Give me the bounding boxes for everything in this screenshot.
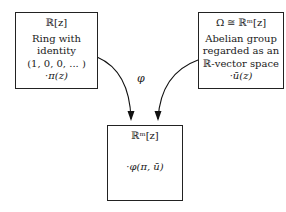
group-desc-line-1: Abelian group — [199, 33, 283, 46]
ring-desc-line-2: identity — [16, 45, 97, 58]
arrow-left-to-bottom — [97, 57, 131, 119]
group-desc-line-2: regarded as an — [199, 45, 283, 58]
arrowhead-left — [128, 111, 135, 121]
ring-desc-line-3: (1, 0, 0, ... ) — [16, 58, 97, 71]
module-title: ℝᵐ[z] — [108, 130, 182, 143]
module-element: ·φ(π, ū) — [108, 161, 182, 174]
arrow-right-to-bottom — [158, 60, 198, 119]
map-label-phi: φ — [137, 72, 145, 85]
arrowhead-right — [155, 111, 162, 121]
ring-desc-line-1: Ring with — [16, 33, 97, 46]
ring-box: ℝ[z] Ring with identity (1, 0, 0, ... ) … — [15, 12, 98, 89]
group-element: ·ū(z) — [199, 70, 283, 83]
group-desc-line-3: ℝ-vector space — [199, 58, 283, 71]
module-box: ℝᵐ[z] ·φ(π, ū) — [107, 125, 183, 201]
ring-element: ·π(z) — [16, 70, 97, 83]
group-title: Ω ≅ ℝᵐ[z] — [199, 17, 283, 30]
ring-title: ℝ[z] — [16, 17, 97, 30]
abelian-group-box: Ω ≅ ℝᵐ[z] Abelian group regarded as an ℝ… — [198, 12, 284, 89]
